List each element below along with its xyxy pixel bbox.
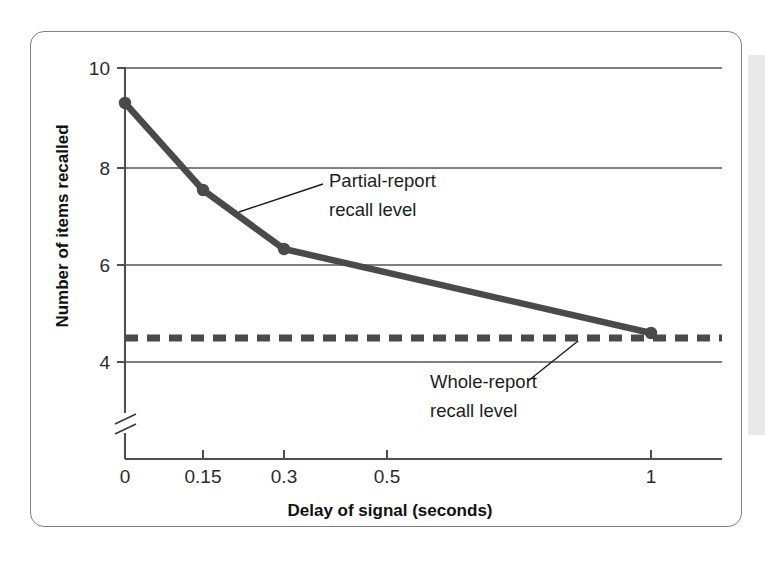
- y-tick-label-10: 10: [89, 58, 110, 79]
- annotation-partial-report-line-2: recall level: [329, 199, 416, 220]
- annotation-whole-report: Whole-report recall level: [430, 341, 578, 421]
- data-point-2: [278, 243, 290, 255]
- annotation-whole-report-line-1: Whole-report: [430, 371, 537, 392]
- x-axis: [125, 450, 722, 459]
- y-axis: [115, 67, 136, 459]
- data-point-1: [197, 184, 209, 196]
- x-axis-title: Delay of signal (seconds): [288, 501, 493, 520]
- x-tick-label-0.15: 0.15: [185, 466, 222, 487]
- line-chart: 10 8 6 4 0 0.15 0.3 0.5 1: [0, 0, 765, 569]
- annotation-partial-report: Partial-report recall level: [239, 170, 436, 220]
- data-point-3: [645, 327, 657, 339]
- x-tick-label-1: 1: [646, 466, 657, 487]
- y-axis-break-icon: [115, 414, 136, 434]
- y-tick-label-6: 6: [99, 255, 110, 276]
- x-tick-label-0.5: 0.5: [374, 466, 400, 487]
- y-tick-label-4: 4: [99, 352, 110, 373]
- annotation-partial-report-leader: [239, 184, 323, 212]
- x-tick-label-0.3: 0.3: [271, 466, 297, 487]
- annotation-partial-report-line-1: Partial-report: [329, 170, 436, 191]
- y-axis-title: Number of items recalled: [53, 124, 72, 327]
- y-tick-label-8: 8: [99, 158, 110, 179]
- data-point-0: [119, 97, 131, 109]
- gridlines: [125, 68, 722, 362]
- figure-root: 10 8 6 4 0 0.15 0.3 0.5 1: [0, 0, 765, 569]
- x-tick-label-0: 0: [120, 466, 131, 487]
- annotation-whole-report-line-2: recall level: [430, 400, 517, 421]
